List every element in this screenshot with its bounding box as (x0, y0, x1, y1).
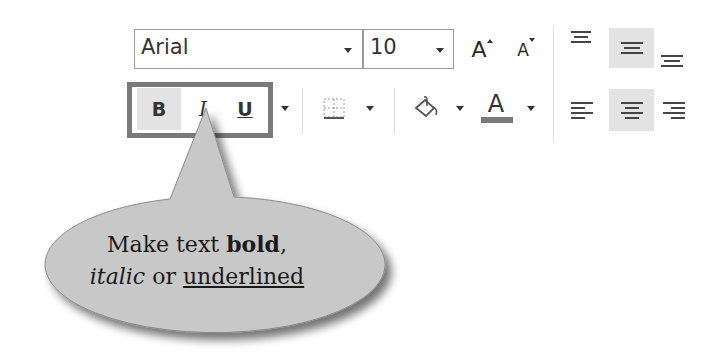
callout-bubble (0, 0, 724, 357)
callout-line-1: Make text bold, (28, 228, 366, 261)
callout-underlined-word: underlined (183, 264, 304, 289)
callout-text: Make text bold, italic or underlined (28, 228, 366, 293)
callout-line-2: italic or underlined (28, 261, 366, 293)
callout-text-prefix: Make text (107, 232, 226, 257)
callout-or: or (145, 264, 183, 289)
callout-italic-word: italic (90, 264, 145, 289)
callout-bold-word: bold (226, 231, 280, 257)
callout-comma: , (280, 232, 287, 257)
